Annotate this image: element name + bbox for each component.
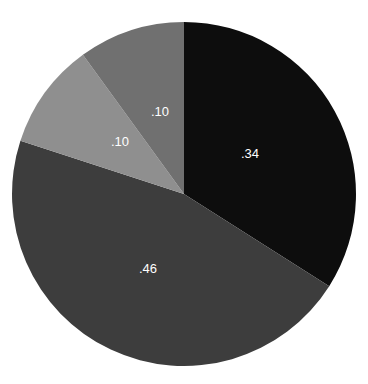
- pie-slice-label: .10: [111, 134, 129, 149]
- pie-slice-label: .10: [151, 104, 169, 119]
- chart-canvas: .34.46.10.10: [0, 0, 368, 384]
- pie-slice-label: .34: [241, 146, 259, 161]
- pie-chart-svg: .34.46.10.10: [12, 22, 356, 366]
- pie-chart: .34.46.10.10: [12, 22, 356, 366]
- pie-slice-label: .46: [139, 261, 157, 276]
- pie-slice-group: [12, 22, 356, 366]
- chart-title: [0, 0, 368, 3]
